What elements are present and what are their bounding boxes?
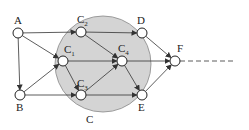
- edge-a-b: [18, 38, 20, 90]
- node-label: E: [138, 101, 145, 113]
- node-label: A: [14, 14, 22, 26]
- diagram-svg: ABC1C2C3C4DEF C: [0, 0, 249, 130]
- node-circle: [58, 56, 68, 66]
- node-circle: [13, 28, 23, 38]
- edge-a-c1: [22, 36, 58, 58]
- node-circle: [137, 90, 147, 100]
- node-f: F: [170, 42, 183, 66]
- edge-b-c1: [24, 64, 59, 91]
- node-label: D: [137, 14, 145, 26]
- network-diagram: ABC1C2C3C4DEF C: [0, 0, 249, 130]
- node-circle: [15, 90, 25, 100]
- node-label: F: [177, 42, 183, 54]
- node-label: B: [16, 101, 23, 113]
- node-circle: [76, 27, 86, 37]
- node-circle: [137, 28, 147, 38]
- node-e: E: [137, 90, 147, 113]
- node-d: D: [137, 14, 147, 38]
- node-circle: [117, 56, 127, 66]
- node-circle: [170, 56, 180, 66]
- node-a: A: [13, 14, 23, 38]
- region-c-label: C: [86, 113, 93, 125]
- node-b: B: [15, 90, 25, 113]
- region-c-circle: [55, 16, 151, 112]
